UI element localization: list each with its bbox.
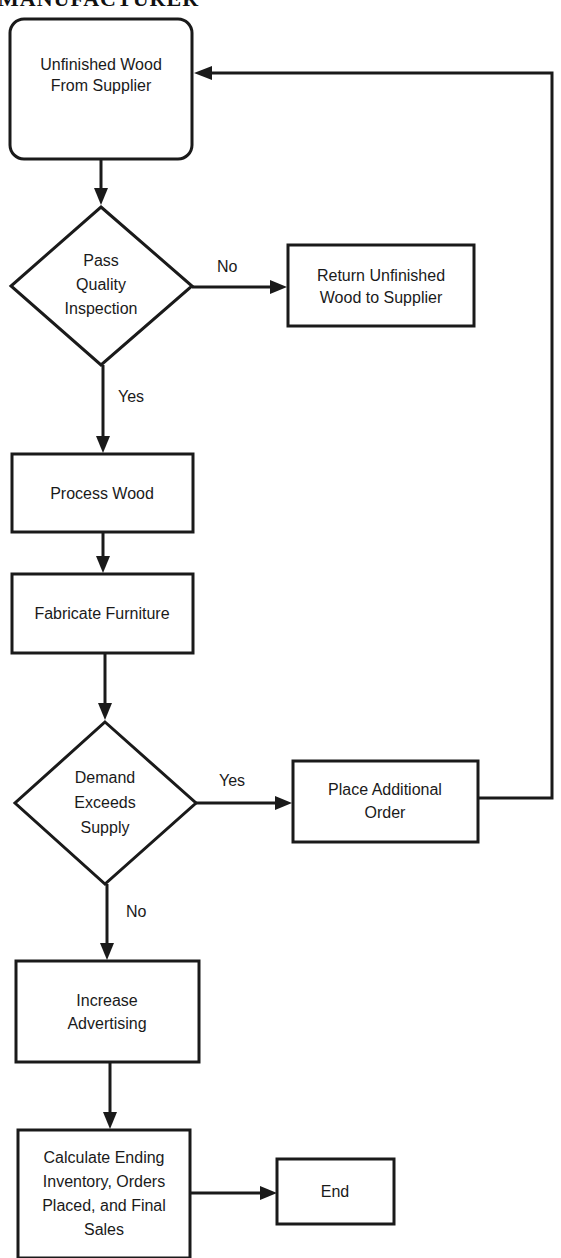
node-text: Calculate Ending — [44, 1149, 165, 1166]
node-process-wood: Process Wood — [12, 454, 193, 532]
node-text: Demand — [75, 769, 135, 786]
node-calculate-ending: Calculate Ending Inventory, Orders Place… — [18, 1130, 190, 1258]
arrowhead-icon — [96, 436, 110, 453]
node-text: Wood to Supplier — [320, 289, 443, 306]
node-text: From Supplier — [51, 77, 152, 94]
edge-quality-yes: Yes — [96, 365, 144, 453]
edge-fabricate-to-demand — [98, 653, 112, 720]
edge-advertise-to-calculate — [103, 1062, 117, 1129]
edge-quality-no: No — [192, 258, 287, 294]
node-fabricate-furniture: Fabricate Furniture — [12, 574, 193, 653]
arrowhead-icon — [270, 280, 287, 294]
node-demand-exceeds-supply: Demand Exceeds Supply — [15, 722, 196, 884]
edge-label-yes: Yes — [219, 772, 245, 789]
edge-label-no: No — [126, 903, 147, 920]
arrowhead-icon — [94, 188, 108, 205]
node-text: Advertising — [67, 1015, 146, 1032]
node-text: Order — [365, 804, 407, 821]
edge-demand-yes: Yes — [196, 772, 292, 810]
edge-order-to-start — [194, 66, 552, 798]
arrowhead-icon — [96, 556, 110, 573]
node-text: Process Wood — [50, 485, 154, 502]
edge-calculate-to-end — [190, 1186, 277, 1200]
arrowhead-icon — [100, 943, 114, 960]
edge-process-to-fabricate — [96, 532, 110, 573]
node-text: Unfinished Wood — [40, 56, 162, 73]
arrowhead-icon — [260, 1186, 277, 1200]
flowchart: Unfinished Wood From Supplier Pass Quali… — [0, 0, 561, 1258]
edge-start-to-quality — [94, 159, 108, 205]
node-text: Increase — [76, 992, 137, 1009]
arrowhead-icon — [275, 796, 292, 810]
node-text: Inspection — [65, 300, 138, 317]
node-text: Sales — [84, 1221, 124, 1238]
node-text: Exceeds — [74, 794, 135, 811]
arrowhead-icon — [194, 66, 212, 80]
node-quality-inspection: Pass Quality Inspection — [11, 207, 192, 365]
node-increase-advertising: Increase Advertising — [16, 961, 199, 1062]
node-place-additional-order: Place Additional Order — [293, 761, 478, 842]
node-text: Placed, and Final — [42, 1197, 166, 1214]
node-text: Fabricate Furniture — [34, 605, 169, 622]
node-unfinished-wood: Unfinished Wood From Supplier — [10, 19, 192, 159]
node-text: Inventory, Orders — [43, 1173, 165, 1190]
edge-label-yes: Yes — [118, 388, 144, 405]
node-text: Pass — [83, 252, 119, 269]
node-text: Supply — [81, 819, 130, 836]
arrowhead-icon — [103, 1112, 117, 1129]
node-text: Return Unfinished — [317, 267, 445, 284]
edge-label-no: No — [217, 258, 238, 275]
node-end: End — [277, 1159, 394, 1224]
node-text: End — [321, 1183, 349, 1200]
node-return-wood: Return Unfinished Wood to Supplier — [288, 245, 474, 326]
edge-demand-no: No — [100, 884, 147, 960]
arrowhead-icon — [98, 703, 112, 720]
node-text: Quality — [76, 276, 126, 293]
node-text: Place Additional — [328, 781, 442, 798]
